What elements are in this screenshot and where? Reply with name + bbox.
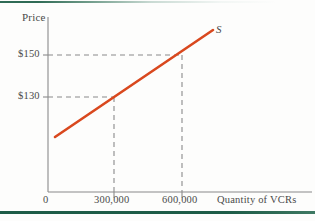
supply-curve-line (55, 30, 213, 137)
x-axis-title: Quantity of VCRs (217, 195, 296, 206)
supply-curve-label: S (216, 24, 222, 35)
y-tick-label-150: $150 (18, 49, 40, 60)
x-tick-label-300000: 300,000 (94, 195, 130, 206)
y-tick-label-130: $130 (18, 91, 40, 102)
origin-label: 0 (43, 195, 48, 206)
y-axis-title: Price (22, 12, 46, 23)
supply-curve-figure: Price $150 $130 0 300,000 600,000 Quanti… (0, 0, 315, 221)
x-tick-label-600000: 600,000 (162, 195, 198, 206)
chart-plot-area (0, 0, 315, 221)
